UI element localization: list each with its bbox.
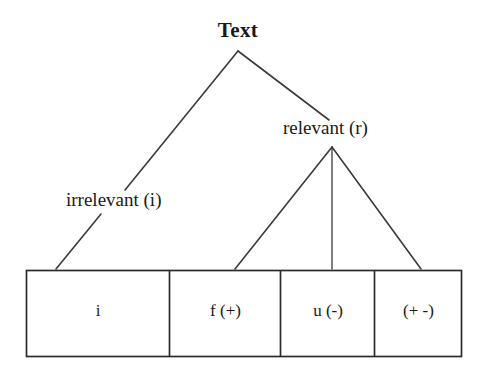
relevant-branches (235, 147, 421, 269)
leaf-box-label-u: u (-) (281, 302, 375, 319)
edge-irrelevant-to-box-i (56, 214, 101, 269)
irrelevant-branch (56, 214, 101, 269)
node-label-irrelevant: irrelevant (i) (66, 190, 161, 209)
edge-relevant-to-box-plusminus (332, 147, 421, 269)
diagram-canvas: Text relevant (r) irrelevant (i) i f (+)… (0, 0, 488, 374)
node-label-relevant: relevant (r) (283, 118, 368, 137)
edge-text-to-relevant (238, 51, 329, 120)
leaf-box-label-f: f (+) (170, 302, 281, 319)
leaf-box-label-i: i (26, 302, 170, 319)
edge-relevant-to-box-f (235, 147, 332, 269)
node-label-root: Text (0, 20, 482, 41)
leaf-box-label-plusminus: (+ -) (375, 302, 462, 319)
edge-text-to-irrelevant (125, 51, 238, 190)
